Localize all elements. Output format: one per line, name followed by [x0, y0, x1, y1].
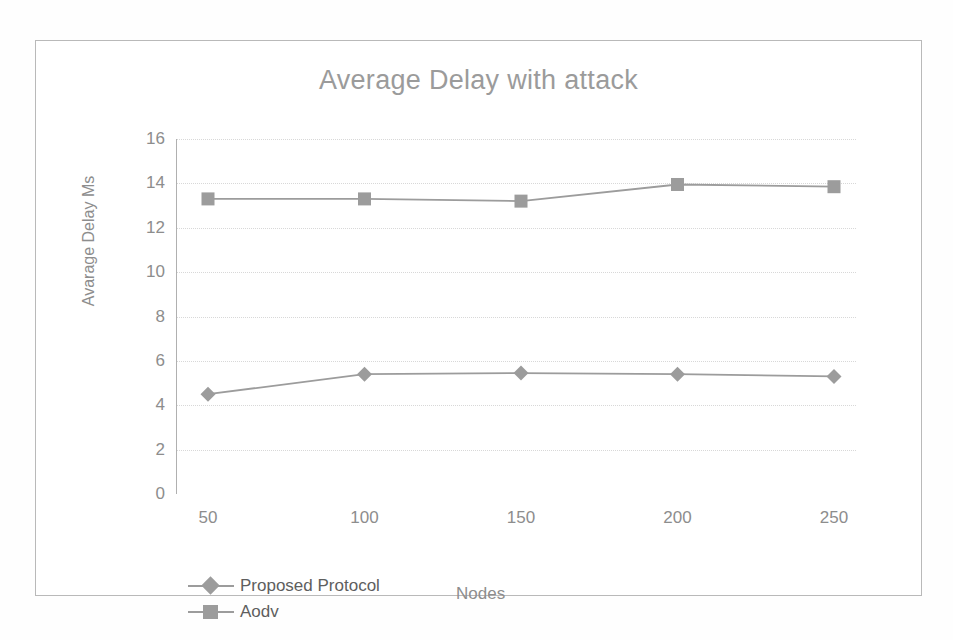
y-tick-label: 14 [146, 173, 165, 193]
y-tick-label: 12 [146, 218, 165, 238]
x-axis-title: Nodes [456, 584, 505, 604]
y-tick-label: 8 [156, 307, 165, 327]
plot-area: 0246810121416 50100150200250 [176, 139, 856, 494]
legend-label: Aodv [240, 602, 279, 622]
data-point-diamond [357, 367, 372, 382]
legend-key-marker [201, 576, 219, 594]
data-point-diamond [827, 369, 842, 384]
data-point-diamond [514, 366, 529, 381]
series-layer [176, 139, 856, 494]
chart-title: Average Delay with attack [36, 65, 921, 96]
legend-diamond-icon [188, 576, 234, 596]
y-tick-label: 0 [156, 484, 165, 504]
data-point-square [828, 180, 841, 193]
x-tick-label: 100 [350, 508, 378, 528]
data-point-square [515, 195, 528, 208]
legend-label: Proposed Protocol [240, 576, 380, 596]
chart-frame: Average Delay with attack Avarage Delay … [35, 40, 922, 596]
data-point-diamond [670, 367, 685, 382]
series-2 [202, 178, 841, 208]
legend-item-1[interactable]: Proposed Protocol [188, 573, 380, 599]
data-point-diamond [201, 387, 216, 402]
y-axis-title-label: Avarage Delay Ms [80, 131, 98, 351]
legend-key-marker [203, 605, 218, 619]
legend-item-2[interactable]: Aodv [188, 599, 380, 625]
x-tick-label: 50 [199, 508, 218, 528]
y-tick-label: 6 [156, 351, 165, 371]
x-tick-label: 150 [507, 508, 535, 528]
data-point-square [358, 192, 371, 205]
data-point-square [202, 192, 215, 205]
data-point-square [671, 178, 684, 191]
y-tick-label: 2 [156, 440, 165, 460]
y-axis-title: Avarage Delay Ms [94, 21, 112, 241]
scanned-figure-page: Average Delay with attack Avarage Delay … [0, 0, 953, 640]
x-tick-label: 250 [820, 508, 848, 528]
chart-legend: Proposed ProtocolAodv [188, 573, 380, 625]
y-tick-label: 16 [146, 129, 165, 149]
series-1 [201, 366, 842, 402]
x-tick-label: 200 [663, 508, 691, 528]
legend-square-icon [188, 602, 234, 622]
y-tick-label: 4 [156, 395, 165, 415]
y-tick-label: 10 [146, 262, 165, 282]
